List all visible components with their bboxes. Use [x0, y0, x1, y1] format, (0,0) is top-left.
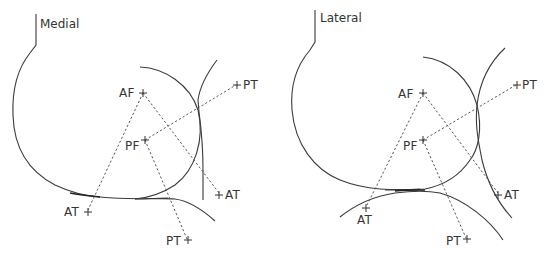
medial-pt-lower-marker [184, 236, 192, 244]
medial-condyle-arc [135, 67, 200, 199]
medial-title: Medial [40, 18, 79, 30]
medial-label-at-right: AT [225, 189, 240, 201]
lateral-label-at-left: AT [357, 214, 372, 226]
lateral-label-pt-lower: PT [446, 235, 461, 247]
medial-label-af: AF [119, 87, 135, 99]
medial-pf-marker [141, 136, 149, 144]
lateral-at-left-marker [362, 204, 370, 212]
lateral-label-af: AF [398, 88, 414, 100]
medial-af-at2-line [143, 93, 219, 193]
medial-femur-outline [13, 14, 168, 199]
lateral-pt-upper-marker [513, 81, 521, 89]
lateral-af-marker [419, 89, 427, 97]
lateral-af-at2-line [423, 93, 498, 193]
lateral-pf-marker [419, 136, 427, 144]
medial-label-pt-lower: PT [166, 235, 181, 247]
medial-pt-upper-marker [233, 81, 241, 89]
medial-label-pt-upper: PT [243, 79, 258, 91]
knee-diagram [0, 0, 549, 259]
medial-label-at-left: AT [64, 206, 79, 218]
medial-pf-pt-line [145, 85, 236, 140]
lateral-panel [292, 10, 521, 243]
medial-tibial-line [198, 60, 217, 200]
lateral-label-pt-upper: PT [522, 79, 537, 91]
lateral-condyle-arc [385, 57, 480, 190]
medial-label-pf: PF [125, 140, 140, 152]
lateral-label-at-right: AT [504, 189, 519, 201]
medial-at-left-marker [84, 208, 92, 216]
medial-pf-pt2-line [145, 140, 187, 239]
lateral-at-right-marker [494, 191, 502, 199]
lateral-label-pf: PF [403, 140, 418, 152]
medial-af-marker [139, 89, 147, 97]
medial-panel [13, 14, 241, 244]
lateral-pf-pt2-line [423, 140, 466, 238]
lateral-pt-lower-marker [463, 235, 471, 243]
lateral-title: Lateral [320, 12, 362, 24]
lateral-pf-pt-line [423, 85, 516, 140]
medial-at-right-marker [215, 191, 223, 199]
